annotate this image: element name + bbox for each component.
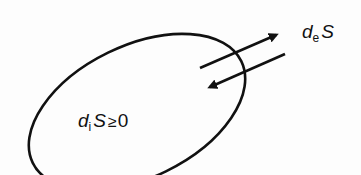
diagram-svg: deS diS≥0 bbox=[0, 0, 361, 175]
exchange-entropy-label: deS bbox=[302, 21, 334, 45]
entropy-diagram: deS diS≥0 bbox=[0, 0, 361, 175]
internal-entropy-label: diS≥0 bbox=[78, 110, 128, 134]
system-boundary bbox=[4, 2, 270, 175]
